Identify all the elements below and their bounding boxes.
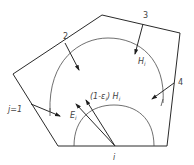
arrow-surface-3 xyxy=(135,24,143,54)
label-surface-j1: j=1 xyxy=(7,105,22,114)
label-surface-i: i xyxy=(113,153,116,162)
small-hemisphere-arc xyxy=(74,105,154,146)
label-irradiation: Hi xyxy=(138,57,146,67)
label-reflected: (1-εi) Hi xyxy=(90,92,121,102)
label-surface-4: 4 xyxy=(178,78,183,87)
arrow-emission xyxy=(76,104,115,146)
label-emission: Ei xyxy=(70,111,77,121)
label-surface-2: 2 xyxy=(63,32,68,41)
label-surface-3: 3 xyxy=(143,11,148,20)
diagram-canvas: 2 3 4 j=1 i Hi Ei (1-εi) Hi xyxy=(0,0,194,165)
enclosure-diagram: 2 3 4 j=1 i Hi Ei (1-εi) Hi xyxy=(0,0,194,165)
